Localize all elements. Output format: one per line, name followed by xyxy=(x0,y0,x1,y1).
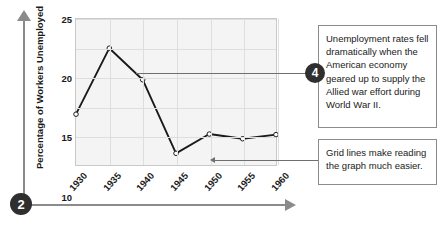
gridline-vertical xyxy=(278,19,279,165)
x-tick-label: 1950 xyxy=(202,170,224,193)
x-tick-label: 1955 xyxy=(235,170,257,193)
gridline-horizontal: 25 xyxy=(76,19,276,20)
y-tick-label: 20 xyxy=(61,73,72,84)
gridline-vertical xyxy=(177,19,178,165)
line-series xyxy=(76,19,276,165)
figure-root: 2 Percentage of Workers Unemployed 51015… xyxy=(0,0,441,231)
x-tick-label: 1960 xyxy=(269,170,291,193)
x-tick-label: 1945 xyxy=(168,170,190,193)
step-badge-callout: 4 xyxy=(305,63,325,83)
callout-gridlines: Grid lines make reading the graph much e… xyxy=(318,139,437,185)
annotation-horizontal-axis-arrow-icon xyxy=(285,199,296,211)
y-tick-label: 15 xyxy=(61,132,72,143)
gridline-horizontal: 15 xyxy=(76,78,276,79)
data-point-marker xyxy=(74,112,79,117)
callout-1-leader-line xyxy=(136,73,312,74)
y-axis-title: Percentage of Workers Unemployed xyxy=(34,3,45,173)
gridline-vertical xyxy=(143,19,144,165)
x-tick-label: 1935 xyxy=(101,170,123,193)
chart-plot-area: 5101520251930193519401945195019551960 xyxy=(75,18,277,166)
gridline-vertical xyxy=(244,19,245,165)
gridline-vertical xyxy=(110,19,111,165)
annotation-horizontal-axis xyxy=(23,204,291,206)
gridline-horizontal: 20 xyxy=(76,49,276,50)
x-tick-label: 1930 xyxy=(67,170,89,193)
y-tick-label: 10 xyxy=(61,191,72,202)
gridline-vertical xyxy=(211,19,212,165)
gridline-horizontal: 10 xyxy=(76,108,276,109)
y-tick-label: 25 xyxy=(61,14,72,25)
callout-2-leader-arrow-icon xyxy=(210,157,215,163)
callout-2-leader-line xyxy=(213,160,318,161)
step-badge-axes: 2 xyxy=(10,193,32,215)
callout-unemployment: Unemployment rates fell dramatically whe… xyxy=(318,25,437,128)
annotation-vertical-axis xyxy=(23,18,25,205)
annotation-vertical-axis-arrow-icon xyxy=(17,10,31,21)
gridline-horizontal: 5 xyxy=(76,137,276,138)
x-tick-label: 1940 xyxy=(134,170,156,193)
